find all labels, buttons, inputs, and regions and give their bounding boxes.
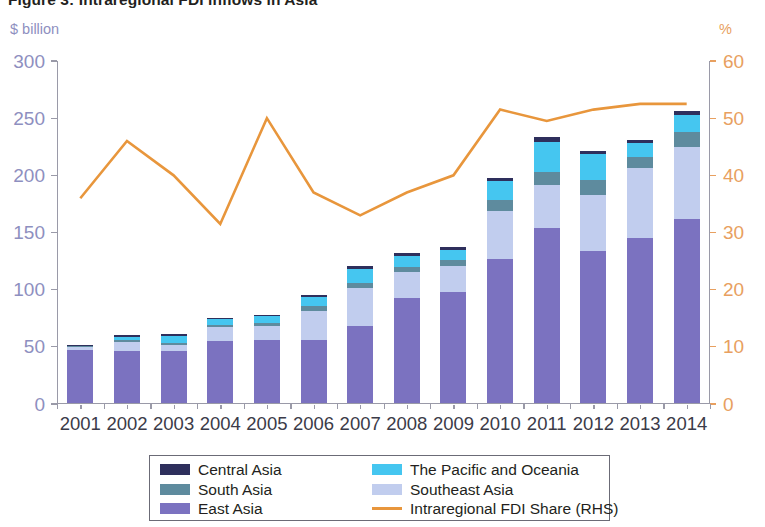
x-axis-tick-label: 2006	[289, 413, 339, 435]
left-axis-tick-label: 50	[24, 337, 57, 356]
bar-segment-southeast-asia	[207, 327, 233, 341]
legend-column-left: Central AsiaSouth AsiaEast Asia	[160, 460, 282, 519]
x-tick-mark-center	[407, 405, 408, 409]
x-axis-tick-label: 2001	[55, 413, 105, 435]
right-axis-tick-label: 30	[710, 223, 744, 242]
bar-segment-east-asia	[674, 219, 700, 403]
x-tick-mark-center	[220, 405, 221, 409]
plot-area: 050100150200250300 0102030405060 2001200…	[57, 61, 710, 404]
x-tick-mark	[384, 404, 385, 409]
bar-2014	[674, 111, 700, 403]
x-tick-mark	[150, 404, 151, 409]
bar-segment-east-asia	[534, 228, 560, 403]
x-axis-tick-label: 2014	[662, 413, 712, 435]
bar-segment-the-pacific-and-oceania	[674, 115, 700, 132]
bar-2013	[627, 140, 653, 403]
bar-segment-the-pacific-and-oceania	[394, 256, 420, 267]
bar-2012	[580, 151, 606, 402]
legend-item-label: Intraregional FDI Share (RHS)	[410, 501, 618, 517]
x-tick-mark-center	[593, 405, 594, 409]
x-tick-mark	[104, 404, 105, 409]
bar-segment-east-asia	[580, 251, 606, 403]
x-tick-mark-center	[80, 405, 81, 409]
x-axis-tick-label: 2008	[382, 413, 432, 435]
bar-segment-south-asia	[580, 180, 606, 194]
bar-segment-east-asia	[347, 326, 373, 403]
x-axis-tick-label: 2003	[149, 413, 199, 435]
bar-segment-the-pacific-and-oceania	[347, 269, 373, 283]
bar-segment-southeast-asia	[534, 185, 560, 227]
x-tick-mark	[523, 404, 524, 409]
x-axis-tick-label: 2010	[475, 413, 525, 435]
left-axis-line	[57, 61, 58, 404]
legend-item-label: Southeast Asia	[410, 482, 513, 498]
bar-segment-the-pacific-and-oceania	[580, 154, 606, 180]
legend-item-the-pacific-and-oceania[interactable]: The Pacific and Oceania	[372, 460, 618, 480]
x-tick-mark-center	[360, 405, 361, 409]
bar-segment-the-pacific-and-oceania	[534, 142, 560, 172]
x-tick-mark-center	[314, 405, 315, 409]
x-tick-mark	[617, 404, 618, 409]
legend-color-swatch	[372, 464, 402, 475]
left-axis-tick-label: 150	[13, 223, 57, 242]
legend-item-south-asia[interactable]: South Asia	[160, 480, 282, 500]
bar-segment-southeast-asia	[440, 266, 466, 292]
figure-title: Figure 3: Intraregional FDI inflows in A…	[8, 0, 317, 9]
x-axis-tick-label: 2007	[335, 413, 385, 435]
x-tick-mark-center	[267, 405, 268, 409]
bar-segment-the-pacific-and-oceania	[301, 297, 327, 306]
x-tick-mark	[663, 404, 664, 409]
legend-item-central-asia[interactable]: Central Asia	[160, 460, 282, 480]
left-axis-tick-label: 250	[13, 109, 57, 128]
bar-segment-southeast-asia	[254, 326, 280, 340]
right-axis-tick-label: 50	[710, 109, 744, 128]
right-axis-tick-label: 60	[710, 52, 744, 71]
legend-item-southeast-asia[interactable]: Southeast Asia	[372, 480, 618, 500]
bar-segment-east-asia	[254, 340, 280, 403]
bar-segment-south-asia	[674, 132, 700, 147]
legend-item-intraregional-fdi-share-rhs[interactable]: Intraregional FDI Share (RHS)	[372, 499, 618, 519]
x-axis-tick-label: 2013	[615, 413, 665, 435]
x-tick-mark-center	[687, 405, 688, 409]
bar-segment-southeast-asia	[114, 342, 140, 351]
bar-segment-the-pacific-and-oceania	[254, 316, 280, 323]
bar-segment-the-pacific-and-oceania	[440, 250, 466, 260]
legend-color-swatch	[160, 464, 190, 475]
bar-segment-south-asia	[487, 200, 513, 210]
bar-2002	[114, 335, 140, 402]
legend-color-swatch	[160, 484, 190, 495]
right-axis-tick-label: 10	[710, 337, 744, 356]
right-axis-tick-label: 40	[710, 166, 744, 185]
bar-2008	[394, 253, 420, 403]
bar-2009	[440, 247, 466, 403]
intraregional-fdi-share-line	[57, 61, 710, 404]
x-tick-mark-center	[174, 405, 175, 409]
left-axis-tick-label: 300	[13, 52, 57, 71]
bar-segment-southeast-asia	[394, 272, 420, 297]
x-tick-mark-center	[453, 405, 454, 409]
bar-2010	[487, 178, 513, 403]
x-axis-tick-label: 2011	[522, 413, 572, 435]
bar-segment-east-asia	[207, 341, 233, 403]
figure-container: Figure 3: Intraregional FDI inflows in A…	[0, 0, 765, 527]
bar-segment-east-asia	[487, 259, 513, 403]
left-axis-tick-label: 200	[13, 166, 57, 185]
bar-segment-southeast-asia	[627, 168, 653, 238]
x-axis-tick-label: 2009	[428, 413, 478, 435]
bar-segment-east-asia	[394, 298, 420, 403]
legend-column-right: The Pacific and OceaniaSoutheast AsiaInt…	[372, 460, 618, 519]
bar-segment-south-asia	[534, 172, 560, 186]
x-tick-mark	[337, 404, 338, 409]
x-axis-tick-label: 2005	[242, 413, 292, 435]
x-axis-tick-label: 2012	[568, 413, 618, 435]
bar-2007	[347, 266, 373, 403]
bar-segment-southeast-asia	[580, 195, 606, 251]
legend-item-east-asia[interactable]: East Asia	[160, 499, 282, 519]
legend-line-swatch	[372, 507, 402, 510]
legend-item-label: East Asia	[198, 501, 263, 517]
legend-item-label: Central Asia	[198, 462, 282, 478]
x-tick-mark-center	[640, 405, 641, 409]
bar-segment-south-asia	[627, 157, 653, 168]
x-axis-tick-label: 2004	[195, 413, 245, 435]
x-tick-mark	[430, 404, 431, 409]
